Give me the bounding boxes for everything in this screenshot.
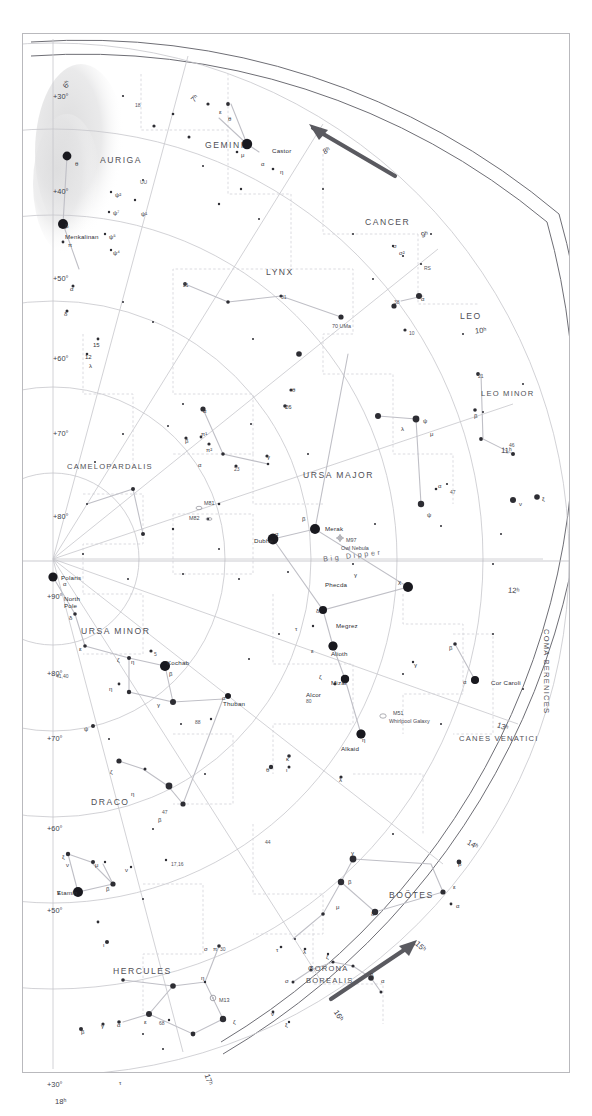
star-kochab (160, 661, 170, 671)
constellation-boundaries (83, 74, 493, 1024)
star-merak (310, 524, 320, 534)
map-frame: +90°+80°+70°+60°+50°+30°+30°+40°+50°+60°… (22, 33, 570, 1073)
star-cor-caroli (471, 676, 479, 684)
milky-way-band (33, 64, 127, 254)
star-alioth (328, 641, 337, 650)
star-alkaid (356, 729, 365, 738)
star-mizar (341, 675, 349, 683)
star-dubhe (268, 534, 279, 545)
star-thuban (225, 693, 231, 699)
field-stars (62, 95, 540, 1050)
arrow-top (309, 124, 395, 176)
dso-markers (196, 506, 386, 1001)
star-castor (242, 139, 252, 149)
ra-radial-lines (53, 39, 543, 1069)
bright-stars (48, 139, 479, 897)
m97-icon (336, 534, 344, 542)
star-menkalinan (58, 219, 68, 229)
declination-label: +30° (47, 1080, 63, 1089)
ra-label: 18ʰ (55, 1097, 66, 1106)
ra-label: 17ʰ (203, 1073, 215, 1087)
star-chart-canvas (23, 34, 569, 1072)
star-etamin (73, 887, 83, 897)
star-theta-aurigae (63, 152, 72, 161)
greek-star-label: τ (119, 1080, 121, 1086)
star-polaris (48, 572, 57, 581)
star-megrez (319, 606, 327, 614)
star-map-page: STAR MAP 2: NORTHERN STARS TO DEC. +30° (0, 0, 592, 1116)
constellation-lines (53, 104, 513, 1034)
star-phecda (403, 582, 413, 592)
m51-icon (380, 714, 386, 718)
direction-arrows (309, 124, 417, 999)
m81-icon (196, 506, 202, 509)
